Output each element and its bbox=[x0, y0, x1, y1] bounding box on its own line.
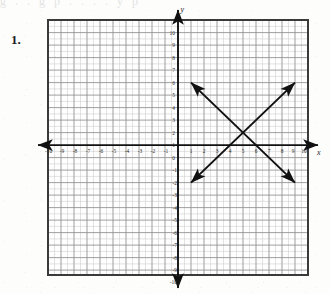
x-tick--5: -5 bbox=[112, 148, 117, 154]
y-tick-8: 8 bbox=[172, 55, 175, 61]
y-tick--10: -10 bbox=[170, 279, 177, 285]
y-tick--4: -4 bbox=[173, 205, 178, 211]
x-tick--7: -7 bbox=[86, 148, 91, 154]
y-tick-2: 2 bbox=[172, 130, 175, 136]
y-tick-5: 5 bbox=[172, 92, 175, 98]
x-tick--9: -9 bbox=[60, 148, 65, 154]
x-tick--1: -1 bbox=[164, 148, 169, 154]
coordinate-graph: y x -10 -9 -8 -7 -6 -5 -4 -3 -2 -1 1 2 3… bbox=[0, 0, 330, 294]
x-tick-6: 6 bbox=[255, 148, 258, 154]
y-tick--6: -6 bbox=[173, 230, 178, 236]
x-tick--8: -8 bbox=[73, 148, 78, 154]
graph-svg: y x -10 -9 -8 -7 -6 -5 -4 -3 -2 -1 1 2 3… bbox=[0, 0, 330, 294]
x-tick-2: 2 bbox=[203, 148, 206, 154]
y-tick--3: -3 bbox=[173, 192, 178, 198]
y-tick--2: -2 bbox=[173, 180, 178, 186]
y-tick-4: 4 bbox=[172, 105, 175, 111]
x-tick-7: 7 bbox=[268, 148, 271, 154]
x-tick--2: -2 bbox=[151, 148, 156, 154]
x-tick-3: 3 bbox=[216, 148, 219, 154]
x-tick-5: 5 bbox=[242, 148, 245, 154]
y-axis-label: y bbox=[180, 5, 185, 14]
x-tick--4: -4 bbox=[125, 148, 130, 154]
y-tick--7: -7 bbox=[173, 242, 178, 248]
x-tick-8: 8 bbox=[281, 148, 284, 154]
x-tick-10: 10 bbox=[301, 148, 307, 154]
x-tick--10: -10 bbox=[45, 148, 52, 154]
x-tick-1: 1 bbox=[190, 148, 193, 154]
y-tick--5: -5 bbox=[173, 217, 178, 223]
y-tick--1: -1 bbox=[173, 167, 178, 173]
y-tick-7: 7 bbox=[172, 67, 175, 73]
x-axis-label: x bbox=[316, 148, 321, 157]
y-tick-3: 3 bbox=[172, 117, 175, 123]
worksheet-page: g . . g p . . . . y p 1. bbox=[0, 0, 330, 294]
y-tick-9: 9 bbox=[172, 42, 175, 48]
y-tick-1: 1 bbox=[172, 142, 175, 148]
y-tick--9: -9 bbox=[173, 267, 178, 273]
x-tick-4: 4 bbox=[229, 148, 232, 154]
y-tick-6: 6 bbox=[172, 80, 175, 86]
x-tick--6: -6 bbox=[99, 148, 104, 154]
x-tick-9: 9 bbox=[292, 148, 295, 154]
x-tick--3: -3 bbox=[138, 148, 143, 154]
y-tick--8: -8 bbox=[173, 255, 178, 261]
y-tick-10: 10 bbox=[170, 30, 176, 36]
y-tick-0: 0 bbox=[172, 155, 175, 161]
